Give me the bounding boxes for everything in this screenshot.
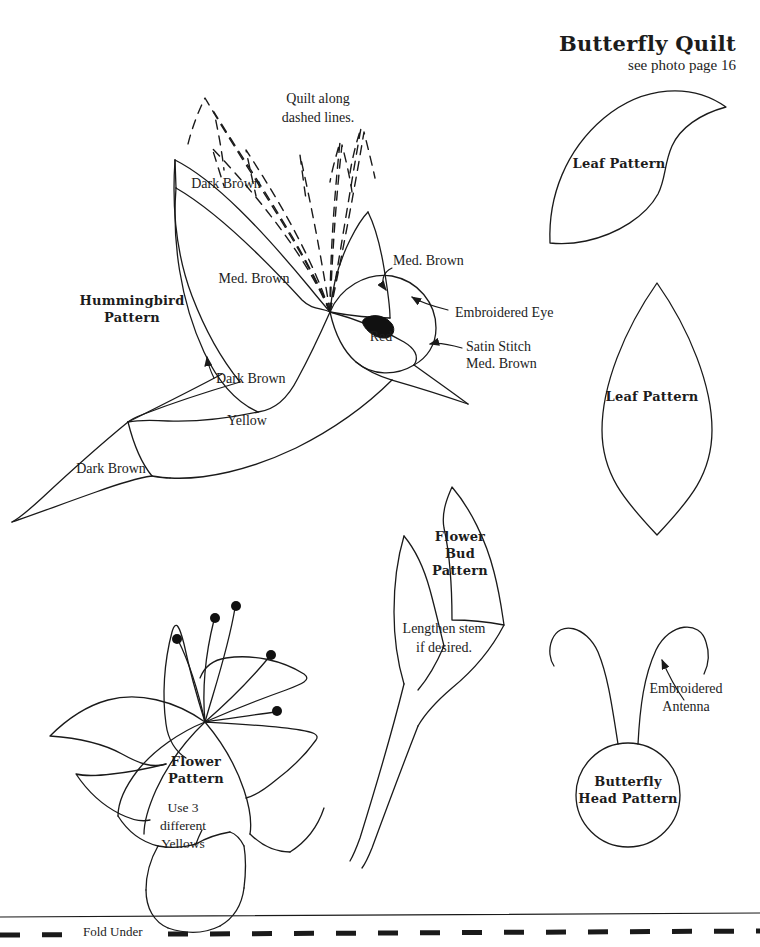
beak-label-line2: Med. Brown <box>466 356 537 372</box>
body-color-label: Yellow <box>227 413 267 429</box>
leaf-pattern-bottom-label: Leaf Pattern <box>606 390 699 405</box>
butterfly-head-label-line2: Head Pattern <box>578 792 677 807</box>
fold-under-label: Fold Under <box>80 925 146 940</box>
page-title: Butterfly Quilt <box>559 32 736 56</box>
eye-fill-color-label: Red <box>370 329 393 345</box>
flower-note-line1: Use 3 <box>167 800 198 815</box>
beak-label-line1: Satin Stitch <box>466 339 531 355</box>
hummingbird-pattern-label-line2: Pattern <box>104 311 160 326</box>
butterfly-head-label-line1: Butterfly <box>594 775 661 790</box>
butterfly-head-shape <box>550 627 708 847</box>
hummingbird-head-body <box>12 275 468 522</box>
antenna-label-line1: Embroidered <box>649 681 722 697</box>
flower-bud-note-line2: if desired. <box>416 640 472 656</box>
quilt-note-line2: dashed lines. <box>282 110 354 126</box>
flower-stamens <box>178 608 276 722</box>
flower-pattern-label-line1: Flower <box>171 755 221 770</box>
leaf-pattern-top-label: Leaf Pattern <box>573 157 666 172</box>
flower-pattern-label-line2: Pattern <box>168 772 224 787</box>
wing-upper-color-label: Dark Brown <box>191 176 261 192</box>
wing-main-color-label: Med. Brown <box>219 271 290 287</box>
flower-bud-label-line1: Flower <box>435 530 485 545</box>
quilt-note-line1: Quilt along <box>286 91 349 107</box>
tail-color-label: Dark Brown <box>76 461 146 477</box>
flower-bud-label-line3: Pattern <box>432 564 488 579</box>
flower-note-line2: different <box>160 818 206 833</box>
flower-note-line3: Yellows <box>161 836 205 851</box>
page-subtitle: see photo page 16 <box>628 57 736 74</box>
flower-bud-note-line1: Lengthen stem <box>403 621 486 637</box>
flower-bud-label-line2: Bud <box>445 547 475 562</box>
head-color-label: Med. Brown <box>393 253 464 269</box>
antenna-label-line2: Antenna <box>662 699 709 715</box>
pattern-page: Butterfly Quilt see photo page 16 Hummin… <box>0 0 760 947</box>
embroidered-eye-label: Embroidered Eye <box>455 305 553 321</box>
leaf-pattern-bottom-shape <box>602 283 712 535</box>
wing-arrow-color-label: Dark Brown <box>216 371 286 387</box>
hummingbird-pattern-label-line1: Hummingbird <box>80 294 185 309</box>
